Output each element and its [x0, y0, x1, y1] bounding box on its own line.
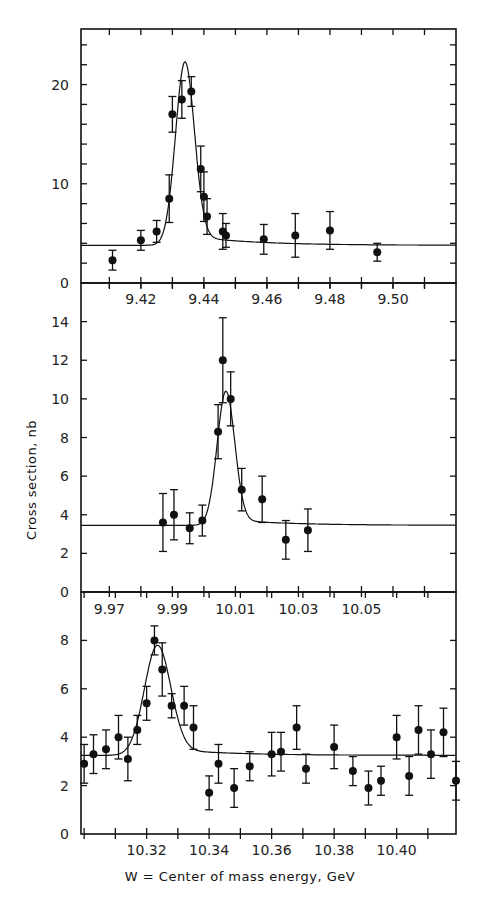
- data-point: [349, 757, 357, 786]
- data-point: [427, 730, 435, 778]
- data-point: [452, 761, 460, 800]
- x-tick-label: 10.40: [377, 842, 417, 858]
- chart-figure: 010209.429.449.469.489.50024681012149.97…: [0, 0, 478, 909]
- data-point: [187, 77, 195, 107]
- x-tick-label: 10.34: [189, 842, 229, 858]
- data-point: [133, 715, 141, 744]
- data-point: [373, 243, 381, 261]
- data-point: [168, 96, 176, 132]
- data-point: [205, 776, 213, 810]
- data-point: [190, 706, 198, 750]
- x-tick-label: 9.50: [377, 291, 408, 307]
- x-axis-label: W = Center of mass energy, GeV: [125, 869, 355, 884]
- x-tick-label: 9.42: [125, 291, 156, 307]
- data-point: [170, 490, 178, 540]
- data-point: [246, 752, 254, 781]
- x-tick-label: 9.44: [188, 291, 219, 307]
- data-point: [365, 771, 373, 805]
- data-point: [268, 732, 276, 776]
- data-point: [180, 686, 188, 725]
- y-tick-label: 8: [60, 632, 69, 648]
- y-tick-label: 2: [60, 545, 69, 561]
- x-tick-label: 9.99: [157, 601, 188, 617]
- data-point: [304, 509, 312, 551]
- data-point: [326, 212, 334, 250]
- data-point: [109, 250, 117, 270]
- panel-2: 024681012149.979.9910.0110.0310.05: [51, 283, 456, 617]
- y-axis-label: Cross section, nb: [24, 420, 39, 540]
- panel-1: 010209.429.449.469.489.50: [51, 29, 456, 307]
- y-tick-label: 0: [60, 826, 69, 842]
- y-tick-label: 6: [60, 681, 69, 697]
- y-tick-label: 10: [51, 391, 69, 407]
- data-point: [260, 224, 268, 254]
- data-point: [150, 626, 158, 655]
- x-tick-label: 10.32: [127, 842, 167, 858]
- data-point: [153, 220, 161, 242]
- y-tick-label: 8: [60, 430, 69, 446]
- data-point: [158, 643, 166, 696]
- data-point: [102, 730, 110, 769]
- data-point: [198, 505, 206, 536]
- data-point: [90, 735, 98, 774]
- data-point: [219, 318, 227, 403]
- y-tick-label: 12: [51, 352, 69, 368]
- data-point: [227, 372, 235, 426]
- data-point: [277, 732, 285, 771]
- x-tick-label: 9.48: [314, 291, 345, 307]
- data-point: [330, 725, 338, 769]
- x-tick-label: 9.97: [94, 601, 125, 617]
- y-tick-label: 14: [51, 314, 69, 330]
- data-point: [178, 81, 186, 119]
- data-point: [291, 214, 299, 258]
- data-point: [440, 708, 448, 756]
- data-point: [168, 694, 176, 718]
- chart-panels: 010209.429.449.469.489.50024681012149.97…: [51, 29, 460, 858]
- data-point: [137, 230, 145, 250]
- x-tick-label: 10.05: [341, 601, 381, 617]
- data-point: [293, 706, 301, 750]
- data-point: [393, 715, 401, 759]
- panel-3: 0246810.3210.3410.3610.3810.40: [60, 592, 460, 858]
- data-point: [124, 737, 132, 781]
- data-point: [230, 769, 238, 808]
- data-point: [186, 513, 194, 544]
- data-point: [215, 744, 223, 783]
- data-point: [377, 766, 385, 795]
- y-tick-label: 20: [51, 77, 69, 93]
- x-tick-label: 10.03: [278, 601, 318, 617]
- data-point: [159, 494, 167, 552]
- data-point: [302, 754, 310, 783]
- data-point: [415, 706, 423, 754]
- plot-frame: [81, 592, 456, 834]
- data-point: [258, 476, 266, 522]
- y-tick-label: 4: [60, 507, 69, 523]
- y-tick-label: 4: [60, 729, 69, 745]
- x-tick-label: 9.46: [251, 291, 282, 307]
- y-tick-label: 0: [60, 275, 69, 291]
- fit-curve: [81, 391, 456, 525]
- y-tick-label: 2: [60, 778, 69, 794]
- data-point: [282, 521, 290, 560]
- x-tick-label: 10.01: [215, 601, 255, 617]
- y-tick-label: 0: [60, 584, 69, 600]
- y-tick-label: 6: [60, 468, 69, 484]
- data-point: [405, 757, 413, 796]
- fit-curve: [81, 62, 456, 246]
- plot-frame: [81, 283, 456, 592]
- y-tick-label: 10: [51, 176, 69, 192]
- x-tick-label: 10.38: [314, 842, 354, 858]
- x-tick-label: 10.36: [252, 842, 292, 858]
